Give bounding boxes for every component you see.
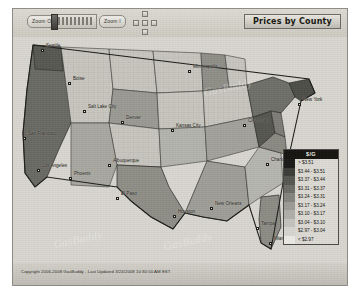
price-legend: $/G > $3.51$3.44 - $3.51$3.37 - $3.44$3.… [283,149,339,245]
city-label: Los Angeles [42,163,67,168]
pan-west-button[interactable] [133,20,139,26]
zoom-slider[interactable] [53,14,97,29]
city-marker[interactable] [266,163,269,166]
city-marker[interactable] [69,177,72,180]
legend-swatch [284,193,295,202]
city-label: San Francisco [28,131,57,136]
city-marker[interactable] [171,129,174,132]
city-marker[interactable] [41,49,44,52]
city-label: Minneapolis [193,64,218,69]
city-label: Salt Lake City [88,104,116,109]
city-marker[interactable] [256,227,259,230]
legend-row: $3.10 - $3.17 [284,210,338,219]
city-label: Phoenix [74,171,91,176]
legend-row: $3.37 - $3.44 [284,176,338,185]
legend-row: > $3.51 [284,159,338,168]
city-marker[interactable] [121,121,124,124]
legend-swatch [284,168,295,177]
map-application-window: Zoom O Zoom I Prices by County [12,8,348,286]
map-toolbar: Zoom O Zoom I Prices by County [13,9,347,37]
legend-swatch [284,210,295,219]
legend-label: $3.31 - $3.37 [295,185,338,194]
city-marker[interactable] [210,207,213,210]
legend-header: $/G [284,150,338,159]
city-marker[interactable] [298,103,301,106]
legend-label: < $2.97 [295,236,338,245]
city-label: Cincinnati [248,118,268,123]
city-label: Kansas City [176,123,201,128]
legend-label: $3.10 - $3.17 [295,210,338,219]
zoom-in-button[interactable]: Zoom I [99,15,126,28]
legend-label: $3.17 - $3.24 [295,202,338,211]
city-label: New York [303,97,322,102]
city-marker[interactable] [116,197,119,200]
city-marker[interactable] [37,169,40,172]
city-label: Tampa [261,221,275,226]
legend-swatch [284,219,295,228]
city-marker[interactable] [83,110,86,113]
legend-row: $3.04 - $3.10 [284,219,338,228]
legend-label: $3.37 - $3.44 [295,176,338,185]
city-marker[interactable] [269,242,272,245]
city-label: Albuquerque [113,158,139,163]
city-marker[interactable] [68,82,71,85]
legend-swatch [284,202,295,211]
legend-swatch [284,236,295,245]
legend-row: $3.44 - $3.51 [284,168,338,177]
city-label: Houston [178,209,195,214]
legend-label: $3.24 - $3.31 [295,193,338,202]
pan-center-button[interactable] [142,20,148,26]
legend-label: $3.44 - $3.51 [295,168,338,177]
pan-north-button[interactable] [142,11,148,17]
pan-south-button[interactable] [142,29,148,35]
legend-swatch [284,185,295,194]
city-marker[interactable] [23,137,26,140]
legend-row: $3.24 - $3.31 [284,193,338,202]
legend-swatch [284,159,295,168]
city-marker[interactable] [173,215,176,218]
city-label: New Orleans [215,201,242,206]
legend-swatch [284,227,295,236]
city-label: El Paso [121,191,137,196]
map-footer: Copyright 2006-2008 GasBuddy - Last Upda… [13,263,347,285]
city-marker[interactable] [108,164,111,167]
legend-row: $2.97 - $3.04 [284,227,338,236]
city-label: Seattle [46,43,60,48]
legend-label: $2.97 - $3.04 [295,227,338,236]
legend-row: < $2.97 [284,236,338,245]
pan-east-button[interactable] [151,20,157,26]
legend-rows: > $3.51$3.44 - $3.51$3.37 - $3.44$3.31 -… [284,159,338,244]
zoom-slider-handle[interactable] [51,14,58,30]
city-marker[interactable] [243,124,246,127]
legend-row: $3.31 - $3.37 [284,185,338,194]
legend-label: $3.04 - $3.10 [295,219,338,228]
pan-control-grid [133,11,157,35]
city-label: Denver [126,115,141,120]
city-label: Boise [73,76,85,81]
legend-swatch [284,176,295,185]
page-title: Prices by County [244,14,341,29]
city-marker[interactable] [188,70,191,73]
legend-row: $3.17 - $3.24 [284,202,338,211]
legend-label: > $3.51 [295,159,338,168]
copyright-text: Copyright 2006-2008 GasBuddy - Last Upda… [21,269,170,274]
